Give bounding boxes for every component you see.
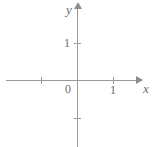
y-axis-tick-one bbox=[74, 43, 81, 44]
y-axis-arrowhead-icon bbox=[74, 2, 82, 9]
x-axis-tick-negative-one bbox=[41, 77, 42, 84]
x-axis-line bbox=[6, 80, 142, 81]
x-axis-label: x bbox=[143, 82, 149, 95]
origin-label: 0 bbox=[65, 83, 71, 95]
y-axis-tick-label-one: 1 bbox=[64, 37, 70, 49]
y-axis-tick-negative-one bbox=[74, 118, 81, 119]
y-axis-line bbox=[77, 5, 78, 147]
coordinate-plane-figure: 0 1 1 y x bbox=[0, 0, 154, 147]
y-axis-label: y bbox=[66, 3, 72, 16]
x-axis-arrowhead-icon bbox=[136, 76, 143, 84]
x-axis-tick-label-one: 1 bbox=[110, 84, 116, 96]
